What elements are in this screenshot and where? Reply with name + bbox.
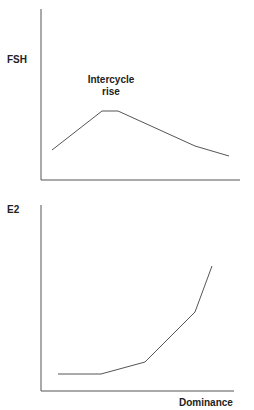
e2-chart — [41, 205, 234, 391]
e2-axis-label: E2 — [7, 204, 19, 215]
intercycle-rise-annotation: Intercycle rise — [86, 74, 136, 98]
annotation-line-1: Intercycle — [86, 74, 136, 86]
fsh-chart — [41, 9, 240, 180]
diagram-canvas — [0, 0, 254, 410]
annotation-line-2: rise — [86, 86, 136, 98]
fsh-curve — [52, 111, 229, 156]
e2-curve — [58, 266, 212, 374]
dominance-axis-label: Dominance — [179, 397, 233, 408]
fsh-axis-label: FSH — [7, 54, 27, 65]
e2-axes — [41, 205, 234, 391]
fsh-axes — [41, 9, 240, 180]
